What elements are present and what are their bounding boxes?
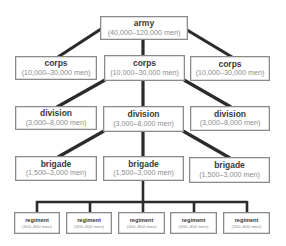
corps-box-center: corps (10,000–30,000 men) [104, 55, 185, 81]
brigade-box-left: brigade (1,500–3,000 men) [15, 156, 97, 181]
brigade-box-center: brigade (1,500–3,000 men) [103, 156, 184, 181]
brigade-range: (1,500–3,000 men) [26, 169, 87, 177]
division-range: (3,000–8,000 men) [26, 119, 87, 127]
connector-corps-division-left [57, 80, 105, 107]
connector-army-corps-left [58, 29, 101, 57]
regiment-box-1: regiment (300–800 men) [14, 212, 60, 234]
corps-box-right: corps (10,000–30,000 men) [190, 56, 270, 81]
brigade-range: (1,500–3,000 men) [113, 169, 174, 177]
division-range: (3,000–8,000 men) [200, 119, 261, 127]
corps-range: (10,000–30,000 men) [22, 69, 91, 77]
brigade-box-right: brigade (1,500–3,000 men) [189, 157, 270, 183]
regiment-range: (300–800 men) [74, 224, 104, 229]
regiment-box-4: regiment (300–800 men) [170, 212, 217, 234]
division-box-left: division (3,000–8,000 men) [15, 106, 97, 130]
regiment-range: (300–800 men) [232, 224, 262, 229]
regiment-box-5: regiment (300–800 men) [223, 212, 270, 234]
regiment-range: (300–800 men) [22, 224, 52, 229]
division-range: (3,000–8,000 men) [113, 120, 174, 128]
division-box-center: division (3,000–8,000 men) [103, 106, 184, 132]
regiment-range: (300–800 men) [179, 224, 209, 229]
corps-range: (10,000–30,000 men) [196, 69, 265, 77]
division-box-right: division (3,000–8,000 men) [190, 106, 270, 131]
connector-army-corps-right [187, 30, 232, 57]
corps-box-left: corps (10,000–30,000 men) [15, 56, 97, 80]
connector-corps-division-right [184, 80, 231, 107]
regiment-range: (300–800 men) [127, 224, 157, 229]
regiment-box-2: regiment (300–800 men) [66, 212, 112, 234]
connector-division-brigade-right [183, 131, 230, 158]
corps-range: (10,000–30,000 men) [110, 69, 179, 77]
brigade-range: (1,500–3,000 men) [199, 171, 260, 179]
connector-division-brigade-left [58, 131, 104, 157]
regiment-box-3: regiment (300–800 men) [118, 212, 165, 234]
army-hierarchy-diagram: army (40,000–120,000 men) corps (10,000–… [0, 0, 286, 246]
army-range: (40,000–120,000 men) [108, 29, 181, 37]
army-box: army (40,000–120,000 men) [100, 16, 188, 40]
